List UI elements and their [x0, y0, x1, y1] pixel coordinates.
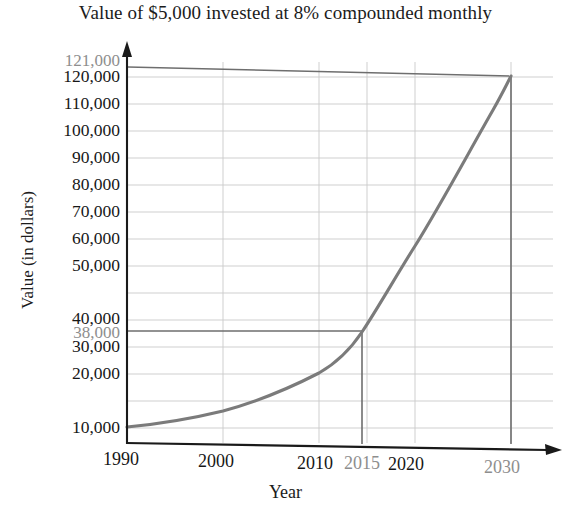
vertical-gridlines [223, 62, 511, 443]
y-tick-label: 70,000 [12, 203, 120, 221]
chart-figure: Value of $5,000 invested at 8% compounde… [0, 0, 571, 516]
horizontal-gridlines [127, 77, 553, 428]
x-axis-title: Year [0, 482, 571, 503]
y-tick-label: 30,000 [12, 338, 120, 356]
x-tick-label-highlight: 2015 [344, 454, 380, 472]
reference-line-2015 [128, 331, 362, 444]
y-tick-label: 80,000 [12, 176, 120, 194]
y-tick-label: 100,000 [12, 122, 120, 140]
x-tick-label-highlight: 2030 [484, 458, 520, 476]
x-tick-label: 2000 [198, 452, 234, 470]
y-tick-label: 60,000 [12, 230, 120, 248]
y-tick-label: 110,000 [12, 95, 120, 113]
x-tick-label: 1990 [103, 450, 139, 468]
y-tick-label: 10,000 [12, 419, 120, 437]
y-axis [122, 41, 132, 444]
y-tick-label: 90,000 [12, 149, 120, 167]
reference-line-2030 [128, 67, 511, 444]
y-tick-label: 50,000 [12, 257, 120, 275]
x-tick-label: 2010 [297, 454, 333, 472]
x-tick-label: 2020 [388, 455, 424, 473]
y-tick-label: 20,000 [12, 365, 120, 383]
y-tick-label: 120,000 [12, 68, 120, 86]
